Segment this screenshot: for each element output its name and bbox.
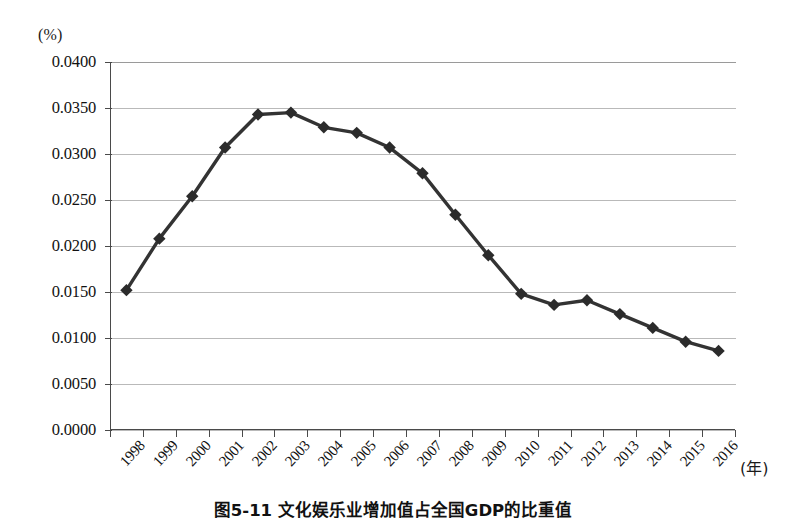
x-axis-tick-label: 2012 <box>578 438 609 469</box>
figure-root: (%) 0.00000.00500.01000.01500.02000.0250… <box>0 0 786 518</box>
x-axis-tick-label: 2003 <box>282 438 313 469</box>
x-axis-tick-label: 2014 <box>644 438 675 469</box>
y-axis-tick-label: 0.0250 <box>52 192 96 209</box>
y-axis-tick-label: 0.0350 <box>52 100 96 117</box>
x-axis-tick-label: 2011 <box>546 438 576 469</box>
x-axis-tick-labels: 1998199920002001200220032004200520062007… <box>110 430 735 490</box>
data-point-marker <box>581 294 593 306</box>
x-axis-tick-label: 2004 <box>315 438 346 469</box>
y-axis-tick-label: 0.0300 <box>52 146 96 163</box>
x-axis-tick-label: 2016 <box>710 438 741 469</box>
x-axis-tick-label: 2013 <box>611 438 642 469</box>
data-point-marker <box>647 322 659 334</box>
data-point-marker <box>548 299 560 311</box>
data-point-marker <box>712 345 724 357</box>
x-axis-tick-label: 2009 <box>480 438 511 469</box>
y-axis-tick-labels: 0.00000.00500.01000.01500.02000.02500.03… <box>0 62 104 430</box>
series-line-chart <box>110 62 735 430</box>
x-axis-tick-label: 1999 <box>151 438 182 469</box>
x-axis-tick-label: 2008 <box>447 438 478 469</box>
y-axis-tick-label: 0.0050 <box>52 376 96 393</box>
data-point-marker <box>679 335 691 347</box>
x-axis-tick-label: 2001 <box>216 438 247 469</box>
data-point-marker <box>351 127 363 139</box>
data-point-marker <box>614 308 626 320</box>
figure-caption: 图5-11 文化娱乐业增加值占全国GDP的比重值 <box>0 497 786 518</box>
y-axis-tick-label: 0.0000 <box>52 422 96 439</box>
series-line <box>126 113 718 351</box>
y-axis-tick-label: 0.0400 <box>52 54 96 71</box>
x-axis-tick-label: 2006 <box>381 438 412 469</box>
x-axis-tick-label: 2015 <box>677 438 708 469</box>
y-axis-unit-label: (%) <box>38 26 63 44</box>
x-axis-tick-label: 2002 <box>249 438 280 469</box>
x-axis-tick-label: 1998 <box>118 438 149 469</box>
x-axis-tick <box>735 430 736 437</box>
y-axis-tick-label: 0.0150 <box>52 284 96 301</box>
y-axis-tick-label: 0.0200 <box>52 238 96 255</box>
y-axis-tick-label: 0.0100 <box>52 330 96 347</box>
x-axis-tick-label: 2007 <box>414 438 445 469</box>
x-axis-tick-label: 2005 <box>348 438 379 469</box>
x-axis-tick-label: 2010 <box>513 438 544 469</box>
data-point-marker <box>285 106 297 118</box>
x-axis-tick-label: 2000 <box>184 438 215 469</box>
data-point-marker <box>318 121 330 133</box>
x-axis-unit-label: (年) <box>740 455 768 479</box>
